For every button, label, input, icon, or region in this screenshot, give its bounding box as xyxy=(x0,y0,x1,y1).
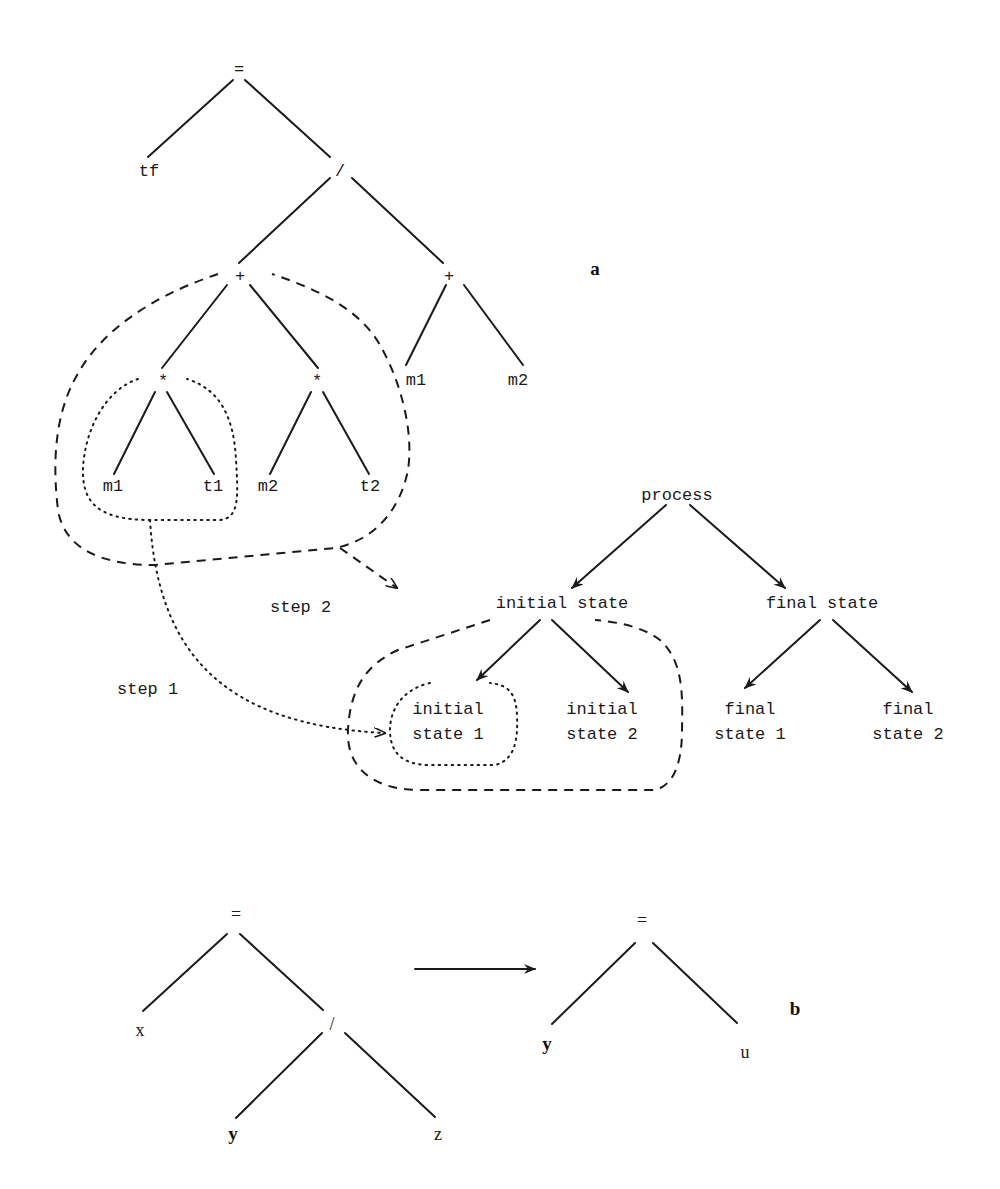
step1-label: step 1 xyxy=(117,680,178,699)
node-t1-leaf: t1 xyxy=(203,477,223,496)
panel-a-label: a xyxy=(590,258,600,279)
edge-b-right-eq-u xyxy=(653,943,737,1023)
edge-times-m2 xyxy=(270,392,311,474)
node-initial-state: initial state xyxy=(496,594,629,613)
node-b-y-bold: y xyxy=(228,1123,238,1144)
edge-final-1 xyxy=(745,620,820,688)
node-initial-state-1-line2: state 1 xyxy=(412,725,483,744)
panel-b-label: b xyxy=(790,998,801,1019)
node-m1-right-leaf: m1 xyxy=(406,371,426,390)
dotted-outline-product-subtree xyxy=(83,379,237,520)
node-final-state-2-line1: final xyxy=(882,700,933,719)
node-b-equals: = xyxy=(231,904,241,924)
edge-b-div-y xyxy=(236,1033,322,1118)
node-b-right-equals: = xyxy=(637,910,647,930)
edge-b-div-z xyxy=(345,1033,435,1117)
edge-eq-div xyxy=(245,80,330,157)
node-equals: = xyxy=(234,60,244,79)
node-times-left: * xyxy=(158,372,168,391)
node-b-right-u: u xyxy=(741,1042,750,1062)
node-final-state-1-line2: state 1 xyxy=(714,725,785,744)
edge-div-plus-right xyxy=(352,178,443,263)
panel-b-left-tree: = x / y z xyxy=(136,904,443,1144)
node-divide: / xyxy=(335,162,345,181)
node-m1-leaf: m1 xyxy=(103,477,123,496)
node-m2-leaf: m2 xyxy=(258,477,278,496)
edge-div-plus-left xyxy=(239,178,330,263)
edge-plus-m2 xyxy=(464,285,523,365)
node-b-z: z xyxy=(434,1124,442,1144)
edge-times-t2 xyxy=(323,392,369,474)
edge-final-2 xyxy=(833,620,912,692)
panel-a-expression-tree: = tf / + + * * m1 t1 m2 t2 m1 m2 step 2 … xyxy=(55,60,528,733)
edge-eq-tf xyxy=(148,80,233,157)
node-plus-left: + xyxy=(235,267,245,286)
edge-process-final xyxy=(690,505,785,588)
edge-times-t1 xyxy=(167,392,214,474)
edge-initial-2 xyxy=(552,620,628,692)
node-process: process xyxy=(641,486,712,505)
step1-arrow xyxy=(150,520,385,733)
node-final-state-1-line1: final xyxy=(724,700,775,719)
node-initial-state-2-line1: initial xyxy=(566,700,637,719)
node-b-right-y-bold: y xyxy=(542,1033,552,1054)
node-tf: tf xyxy=(139,162,159,181)
node-final-state: final state xyxy=(766,594,878,613)
node-plus-right: + xyxy=(444,267,454,286)
node-times-right: * xyxy=(312,372,322,391)
edge-b-right-eq-y xyxy=(552,943,635,1024)
edge-process-initial xyxy=(572,505,666,588)
edge-plus-times-left xyxy=(162,285,227,368)
figure-canvas: = tf / + + * * m1 t1 m2 t2 m1 m2 step 2 … xyxy=(0,0,1000,1189)
node-initial-state-1-line1: initial xyxy=(412,700,483,719)
edge-plus-times-right xyxy=(250,285,318,368)
node-final-state-2-line2: state 2 xyxy=(872,725,943,744)
node-initial-state-2-line2: state 2 xyxy=(566,725,637,744)
panel-b-right-tree: = y u xyxy=(542,910,749,1062)
edge-b-eq-x xyxy=(143,934,227,1011)
node-b-divide: / xyxy=(329,1014,334,1034)
edge-times-m1 xyxy=(114,392,155,474)
edge-b-eq-div xyxy=(240,934,323,1010)
dotted-outline-initial-state-1 xyxy=(390,683,517,765)
node-t2-leaf: t2 xyxy=(360,477,380,496)
node-b-x: x xyxy=(136,1020,145,1040)
edge-initial-1 xyxy=(477,620,540,680)
node-m2-right-leaf: m2 xyxy=(508,371,528,390)
step2-label: step 2 xyxy=(270,598,331,617)
panel-a-process-tree: process initial state final state initia… xyxy=(348,486,944,790)
step2-arrow xyxy=(340,548,397,588)
dashed-outline-sum-subtree xyxy=(55,274,409,565)
edge-plus-m1 xyxy=(406,285,446,365)
